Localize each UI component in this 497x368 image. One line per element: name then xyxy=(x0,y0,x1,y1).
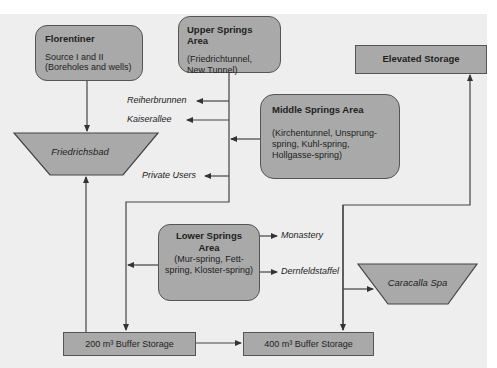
node-elevated-storage: Elevated Storage xyxy=(355,45,487,74)
node-title: Lower Springs Area xyxy=(164,230,254,254)
node-title: Upper Springs Area xyxy=(187,24,272,46)
friedrichsbad-label: Friedrichsbad xyxy=(30,146,130,157)
node-middle-springs: Middle Springs Area (Kirchentunnel, Unsp… xyxy=(260,94,400,179)
consumer-private-users: Private Users xyxy=(142,170,196,180)
node-title: Middle Springs Area xyxy=(272,104,388,115)
consumer-monastery: Monastery xyxy=(281,230,323,240)
node-buffer-400: 400 m³ Buffer Storage xyxy=(243,332,374,356)
node-detail: Source I and II xyxy=(45,52,133,62)
node-buffer-200: 200 m³ Buffer Storage xyxy=(63,332,196,356)
node-detail: (Boreholes and wells) xyxy=(45,62,133,72)
node-detail: (Mur-spring, Fett-spring, Kloster-spring… xyxy=(164,254,254,276)
node-detail: (Kirchentunnel, Unsprung-spring, Kuhl-sp… xyxy=(272,128,388,161)
consumer-dernfeldstaffel: Dernfeldstaffel xyxy=(281,266,339,276)
node-upper-springs: Upper Springs Area (Friedrichtunnel, New… xyxy=(178,16,281,73)
node-lower-springs: Lower Springs Area (Mur-spring, Fett-spr… xyxy=(158,224,260,301)
node-title: Elevated Storage xyxy=(382,53,459,64)
node-label: 400 m³ Buffer Storage xyxy=(264,339,352,349)
node-title: Florentiner xyxy=(45,33,133,44)
consumer-reiherbrunnen: Reiherbrunnen xyxy=(127,95,187,105)
node-detail: (Friedrichtunnel, New Tunnel) xyxy=(187,54,272,76)
node-florentiner: Florentiner Source I and II (Boreholes a… xyxy=(35,25,143,81)
node-label: 200 m³ Buffer Storage xyxy=(85,339,173,349)
caracalla-spa-label: Caracalla Spa xyxy=(370,277,465,288)
consumer-kaiserallee: Kaiserallee xyxy=(127,114,172,124)
